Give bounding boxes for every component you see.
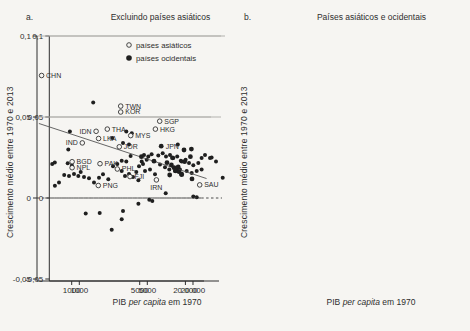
data-point (188, 154, 193, 159)
country-point-PHL (115, 167, 120, 172)
country-label-JOR: JOR (124, 143, 138, 150)
data-point (165, 160, 170, 165)
country-label-SGP: SGP (164, 118, 179, 125)
data-point (179, 172, 184, 177)
figure-growth-vs-gdp: a. Excluindo países asiáticos b. Países … (0, 0, 470, 331)
panel-b-title: Países asiáticos e ocidentais (294, 12, 449, 22)
country-point-KOR (118, 110, 123, 115)
data-point (152, 159, 157, 164)
country-point-CHN (39, 73, 44, 78)
panel-b-x-axis-label: PIB per capita em 1970 (306, 297, 436, 307)
country-point-PAK (98, 161, 103, 166)
country-label-IND: IND (66, 139, 78, 146)
x-tick-label: 20 000 (173, 286, 198, 295)
panel-b-y-axis-label: Crescimento médio entre 1970 e 2013 (239, 72, 249, 252)
x-tick-label: 5000 (131, 286, 149, 295)
x-label-part: em 1970 (166, 297, 201, 307)
legend-open-circle-icon (127, 43, 132, 48)
country-label-HKG: HKG (160, 126, 175, 133)
legend-label: países asiáticos (136, 41, 192, 50)
data-point (182, 148, 187, 153)
data-point (189, 147, 194, 152)
x-label-part: em 1970 (380, 297, 415, 307)
country-label-LKA: LKA (103, 135, 117, 142)
country-point-IRN (154, 178, 159, 183)
country-point-MYS (128, 133, 133, 138)
country-point-PNG (96, 183, 101, 188)
country-point-IDN (94, 129, 99, 134)
country-point-JPN (159, 144, 164, 149)
country-label-JPN: JPN (166, 143, 179, 150)
country-label-MYS: MYS (135, 132, 151, 139)
legend-label: países ocidentais (136, 54, 196, 63)
country-point-JOR (117, 145, 122, 150)
country-point-BGD (70, 159, 75, 164)
country-label-FJI: FJI (134, 173, 144, 180)
panel-b-chart: 0,10,050-0,051000500020 000CHNTWNKORSGPH… (0, 0, 235, 331)
y-tick-label: 0,1 (20, 32, 32, 41)
x-label-part-italic: per capita (343, 297, 380, 307)
y-tick-label: -0,05 (13, 275, 32, 284)
data-point (176, 165, 181, 170)
country-label-SAU: SAU (204, 181, 218, 188)
country-point-HKG (153, 127, 158, 132)
data-point (167, 173, 172, 178)
panel-b-tag: b. (244, 12, 251, 22)
legend-filled-circle-icon (126, 55, 132, 61)
data-point (190, 177, 195, 182)
country-point-IND (80, 141, 85, 146)
x-label-part-italic: per capita (129, 297, 166, 307)
data-point (170, 155, 175, 160)
data-point (182, 159, 187, 164)
country-label-CHN: CHN (46, 72, 61, 79)
x-tick-label: 1000 (63, 286, 81, 295)
country-point-SAU (197, 183, 202, 188)
panel-a-x-axis-label: PIB per capita em 1970 (92, 297, 222, 307)
country-label-PAK: PAK (105, 160, 119, 167)
y-tick-label: 0,05 (15, 113, 31, 122)
country-point-NPL (70, 165, 75, 170)
country-point-THA (105, 127, 110, 132)
country-label-NPL: NPL (77, 164, 91, 171)
data-point (139, 154, 144, 159)
country-point-SGP (157, 119, 162, 124)
country-label-THA: THA (112, 126, 126, 133)
country-label-IRN: IRN (150, 184, 162, 191)
y-tick-label: 0 (27, 194, 32, 203)
country-point-TWN (118, 104, 123, 109)
country-label-KOR: KOR (125, 108, 140, 115)
x-label-part: PIB (327, 297, 343, 307)
country-label-PNG: PNG (103, 182, 118, 189)
country-label-IDN: IDN (80, 128, 92, 135)
data-point (173, 168, 178, 173)
x-label-part: PIB (113, 297, 129, 307)
country-label-PHL: PHL (122, 165, 136, 172)
country-point-FJI (128, 174, 133, 179)
country-point-LKA (96, 136, 101, 141)
